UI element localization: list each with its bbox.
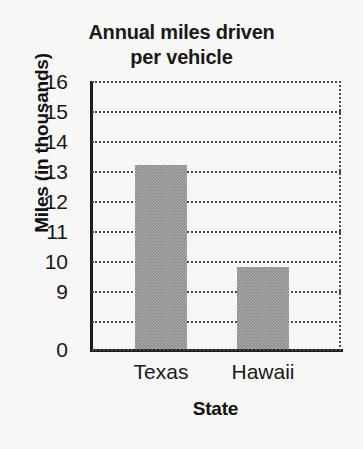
- plot-right-border: [339, 81, 341, 351]
- gridline-baseline-0: [92, 349, 341, 351]
- bar-hawaii: [237, 267, 289, 349]
- gridline-15: [92, 111, 341, 113]
- gridline-11: [92, 231, 341, 233]
- chart-title-line-1: Annual miles driven: [88, 21, 274, 43]
- y-tick-label-12: 12: [24, 191, 68, 212]
- y-axis-line: [90, 81, 93, 352]
- y-tick-label-13: 13: [24, 161, 68, 182]
- x-tick-label-hawaii: Hawaii: [203, 360, 323, 384]
- gridline-16: [92, 81, 341, 83]
- y-tick-label-0: 0: [24, 339, 68, 360]
- y-tick-label-11: 11: [24, 221, 68, 242]
- gridline-14: [92, 141, 341, 143]
- gridline-10: [92, 261, 341, 263]
- gridline-9: [92, 291, 341, 293]
- y-tick-label-9: 9: [24, 281, 68, 302]
- y-tick-label-10: 10: [24, 251, 68, 272]
- gridline-12: [92, 201, 341, 203]
- chart-screenshot: Annual miles driven per vehicle Miles (i…: [0, 0, 363, 449]
- gridline-unlabeled-lower-1: [92, 321, 341, 323]
- plot-area: [90, 81, 341, 351]
- bar-texas: [135, 165, 187, 349]
- y-tick-label-15: 15: [24, 101, 68, 122]
- y-tick-label-16: 16: [24, 71, 68, 92]
- y-tick-label-14: 14: [24, 131, 68, 152]
- x-axis-title: State: [90, 398, 341, 420]
- gridline-13: [92, 171, 341, 173]
